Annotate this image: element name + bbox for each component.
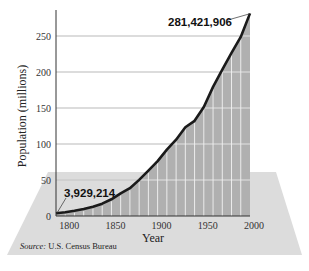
annotation-start: 3,929,214 — [64, 187, 116, 199]
svg-text:50: 50 — [41, 175, 51, 186]
svg-text:1900: 1900 — [152, 220, 172, 231]
x-axis-label: Year — [142, 231, 164, 245]
svg-text:200: 200 — [36, 67, 51, 78]
svg-text:100: 100 — [36, 139, 51, 150]
source-note: Source: U.S. Census Bureau — [20, 241, 117, 251]
svg-text:0: 0 — [46, 211, 51, 222]
svg-text:250: 250 — [36, 31, 51, 42]
annotation-end: 281,421,906 — [168, 16, 232, 28]
svg-text:1800: 1800 — [59, 220, 79, 231]
y-axis-label: Population (millions) — [15, 65, 29, 167]
svg-text:1850: 1850 — [105, 220, 125, 231]
svg-text:1950: 1950 — [198, 220, 218, 231]
svg-text:150: 150 — [36, 103, 51, 114]
population-chart: 050100150200250 18001850190019502000 Yea… — [0, 0, 309, 271]
svg-text:2000: 2000 — [244, 220, 264, 231]
